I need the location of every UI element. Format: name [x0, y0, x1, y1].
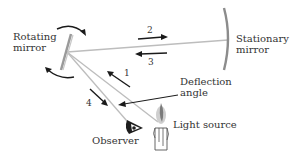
observer-label: Observer: [92, 135, 139, 146]
step-number-4: 4: [86, 98, 92, 108]
diagram-canvas: Rotating mirror Stationary mirror Deflec…: [0, 0, 294, 165]
step-number-2: 2: [147, 25, 153, 35]
deflection-angle-label: Deflection angle: [180, 76, 232, 98]
rotating-mirror-label-line1: Rotating: [13, 31, 57, 42]
arrow-4: [90, 89, 108, 106]
arrow-2: [138, 34, 168, 40]
stationary-mirror-label-line2: mirror: [236, 44, 289, 55]
light-source-label: Light source: [173, 119, 237, 130]
candle-icon: [154, 103, 169, 150]
stationary-mirror-label-line1: Stationary: [236, 33, 289, 44]
rotating-mirror-label-line2: mirror: [13, 42, 57, 53]
step-number-1: 1: [124, 68, 130, 78]
beam-to-stationary-mirror: [67, 40, 228, 52]
stationary-mirror-label: Stationary mirror: [236, 33, 289, 55]
eye-icon: [126, 120, 143, 134]
deflection-angle-label-line1: Deflection: [180, 76, 232, 87]
step-number-3: 3: [148, 57, 154, 67]
deflection-angle-label-line2: angle: [180, 87, 232, 98]
stationary-mirror: [224, 8, 228, 70]
beam-to-observer: [67, 52, 133, 128]
rotating-mirror-label: Rotating mirror: [13, 31, 57, 53]
beam-from-light-source: [67, 52, 158, 122]
deflection-pointer: [118, 95, 178, 107]
